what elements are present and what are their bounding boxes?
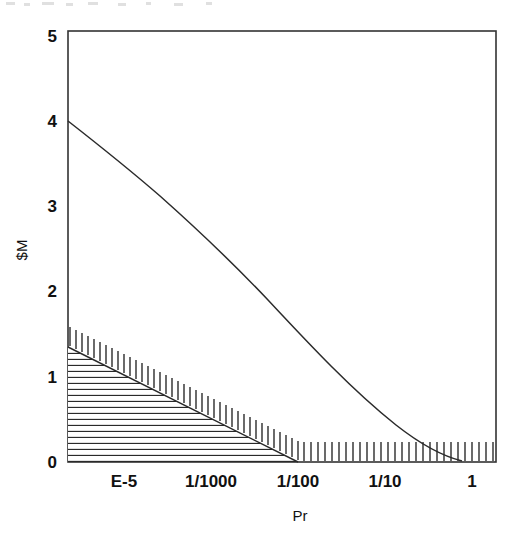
y-tick-label-1: 1	[48, 368, 57, 387]
y-axis-title: $M	[13, 240, 30, 261]
x-tick-label-1-10: 1/10	[368, 472, 401, 491]
xaxis-hatch-ticks	[304, 442, 493, 461]
feasible-region-shading	[66, 330, 306, 470]
x-tick-label-1-100: 1/100	[277, 472, 320, 491]
x-tick-label-1-1000: 1/1000	[185, 472, 237, 491]
chart-canvas: 5 4 3 2 1 0 E-5 1/1000 1/100 1/10 1 Pr $…	[0, 0, 521, 541]
y-tick-label-5: 5	[48, 27, 57, 46]
x-tick-label-1: 1	[467, 472, 476, 491]
x-axis-tick-labels: E-5 1/1000 1/100 1/10 1	[111, 472, 477, 491]
x-tick-label-e5: E-5	[111, 472, 137, 491]
y-tick-label-2: 2	[48, 282, 57, 301]
y-tick-label-4: 4	[48, 112, 58, 131]
y-tick-label-0: 0	[48, 453, 57, 472]
y-axis-tick-labels: 5 4 3 2 1 0	[48, 27, 58, 472]
chart-figure: 5 4 3 2 1 0 E-5 1/1000 1/100 1/10 1 Pr $…	[0, 0, 521, 541]
y-tick-label-3: 3	[48, 197, 57, 216]
x-axis-title: Pr	[293, 507, 308, 524]
